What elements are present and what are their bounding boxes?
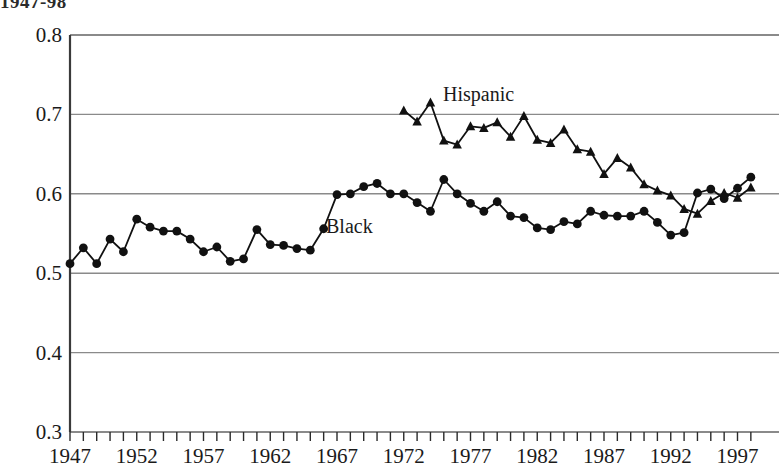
- data-point-circle: [586, 207, 595, 216]
- x-tick-label: 1982: [516, 446, 558, 467]
- data-point-circle: [346, 189, 355, 198]
- data-point-circle: [373, 179, 382, 188]
- data-point-circle: [426, 207, 435, 216]
- series-line: [70, 177, 751, 264]
- data-point-circle: [226, 257, 235, 266]
- data-point-circle: [413, 198, 422, 207]
- data-point-circle: [666, 231, 675, 240]
- data-point-circle: [132, 215, 141, 224]
- data-point-circle: [733, 184, 742, 193]
- data-point-triangle: [399, 105, 409, 114]
- data-point-circle: [186, 235, 195, 244]
- data-point-circle: [479, 207, 488, 216]
- data-point-circle: [333, 190, 342, 199]
- chart-figure: 1947-98 0.30.40.50.60.70.8 1947195219571…: [0, 0, 779, 473]
- data-point-triangle: [746, 182, 756, 191]
- data-point-circle: [613, 212, 622, 221]
- data-series-layer: [66, 97, 756, 268]
- data-point-circle: [680, 228, 689, 237]
- data-point-circle: [399, 189, 408, 198]
- data-point-circle: [306, 246, 315, 255]
- data-point-triangle: [613, 153, 623, 162]
- data-point-circle: [106, 235, 115, 244]
- data-point-circle: [573, 220, 582, 229]
- data-point-circle: [146, 223, 155, 232]
- data-point-circle: [453, 189, 462, 198]
- data-point-triangle: [653, 186, 663, 195]
- x-tick-label: 1947: [49, 446, 91, 467]
- data-point-triangle: [426, 97, 436, 106]
- plot-canvas: [0, 0, 779, 473]
- data-point-circle: [706, 185, 715, 194]
- data-point-circle: [92, 259, 101, 268]
- data-point-circle: [119, 247, 128, 256]
- data-point-circle: [279, 241, 288, 250]
- data-point-triangle: [559, 124, 569, 133]
- data-point-circle: [640, 207, 649, 216]
- data-point-triangle: [626, 163, 636, 172]
- data-point-circle: [560, 217, 569, 226]
- data-point-circle: [746, 173, 755, 182]
- x-tick-label: 1957: [183, 446, 225, 467]
- data-point-circle: [466, 199, 475, 208]
- data-point-circle: [520, 213, 529, 222]
- data-point-circle: [626, 212, 635, 221]
- data-point-circle: [653, 218, 662, 227]
- data-point-circle: [600, 211, 609, 220]
- data-point-triangle: [439, 136, 449, 145]
- series-label-black: Black: [326, 216, 373, 236]
- data-point-circle: [693, 189, 702, 198]
- data-point-circle: [546, 225, 555, 234]
- x-tick-label: 1967: [316, 446, 358, 467]
- data-point-circle: [172, 227, 181, 236]
- data-point-triangle: [719, 188, 729, 197]
- data-point-circle: [266, 240, 275, 249]
- x-tick-label: 1992: [650, 446, 692, 467]
- x-tick-label: 1962: [249, 446, 291, 467]
- x-axis-labels: 1947195219571962196719721977198219871992…: [0, 440, 779, 473]
- data-point-circle: [386, 189, 395, 198]
- data-point-circle: [293, 244, 302, 253]
- series-label-hispanic: Hispanic: [443, 84, 514, 104]
- x-tick-label: 1987: [583, 446, 625, 467]
- x-tick-label: 1972: [383, 446, 425, 467]
- data-point-circle: [159, 227, 168, 236]
- data-point-triangle: [706, 196, 716, 205]
- data-point-triangle: [492, 117, 502, 126]
- data-point-circle: [79, 243, 88, 252]
- data-point-circle: [493, 197, 502, 206]
- data-point-circle: [533, 224, 542, 233]
- data-point-circle: [239, 255, 248, 264]
- x-tick-label: 1977: [450, 446, 492, 467]
- data-point-circle: [439, 175, 448, 184]
- data-point-triangle: [519, 111, 529, 120]
- data-point-circle: [506, 212, 515, 221]
- x-tick-label: 1997: [717, 446, 759, 467]
- series-hispanic: [399, 97, 756, 217]
- data-point-circle: [212, 243, 221, 252]
- data-point-circle: [199, 247, 208, 256]
- data-point-triangle: [533, 135, 543, 144]
- data-point-circle: [359, 182, 368, 191]
- data-point-circle: [66, 259, 75, 268]
- x-tick-label: 1952: [116, 446, 158, 467]
- data-point-circle: [253, 225, 262, 234]
